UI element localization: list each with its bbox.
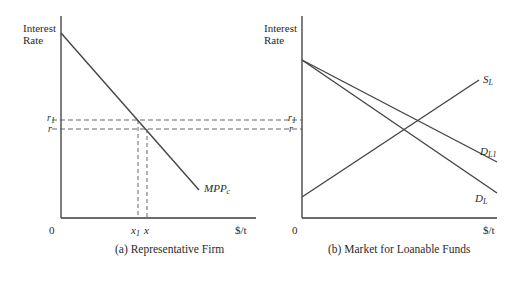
panel-a-r-label: r [48,123,52,135]
mppc-label: MPPc [204,182,230,198]
mppc-curve [61,33,199,190]
x-label: x [144,224,149,236]
panel-b-y-label-line2: Rate [264,34,284,46]
panel-b-x-unit: $/t [483,224,495,236]
x1-label: x1 [131,224,140,240]
panel-b-r-label: r [289,123,293,135]
dl1-label: DL1 [480,145,496,161]
panel-a-graph [52,16,302,218]
panel-b-caption: (b) Market for Loanable Funds [328,243,470,255]
panel-b-graph [302,16,497,218]
sl-label: SL [483,73,493,89]
panel-a-caption: (a) Representative Firm [115,243,224,255]
dl-label: DL [475,192,487,208]
diagram-canvas [0,0,520,281]
panel-b-origin: 0 [292,224,298,236]
dl-curve [302,60,497,193]
panel-a-x-unit: $/t [235,224,247,236]
panel-a-y-label-line2: Rate [23,34,43,46]
panel-a-origin: 0 [49,224,55,236]
panel-a-y-label-line1: Interest [23,22,56,34]
panel-b-y-label-line1: Interest [264,22,297,34]
dl1-curve [302,60,497,162]
